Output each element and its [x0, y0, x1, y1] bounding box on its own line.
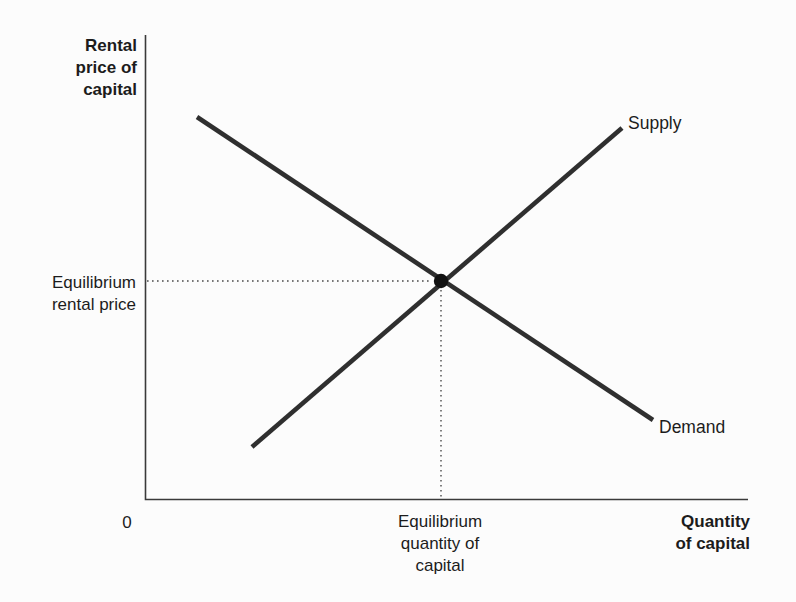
x-axis-title-line2: of capital: [675, 534, 750, 553]
demand-curve-label: Demand: [659, 417, 725, 437]
axes-lines: [146, 35, 749, 500]
equilibrium-quantity-line3: capital: [415, 556, 464, 575]
equilibrium-quantity-line1: Equilibrium: [398, 512, 482, 531]
y-axis-title-line2: price of: [76, 58, 138, 77]
equilibrium-quantity-line2: quantity of: [401, 534, 480, 553]
equilibrium-price-line1: Equilibrium: [52, 273, 136, 292]
origin-label: 0: [122, 513, 131, 532]
equilibrium-price-label: Equilibrium rental price: [52, 273, 136, 314]
supply-curve-label: Supply: [628, 113, 682, 133]
y-axis-title: Rental price of capital: [76, 36, 138, 99]
y-axis-title-line1: Rental: [85, 36, 137, 55]
equilibrium-quantity-label: Equilibrium quantity of capital: [398, 512, 482, 575]
equilibrium-point: [434, 274, 448, 288]
equilibrium-price-line2: rental price: [52, 295, 136, 314]
diagram-svg: Rental price of capital Equilibrium rent…: [0, 0, 796, 602]
x-axis-title: Quantity of capital: [675, 512, 750, 553]
supply-demand-figure: Rental price of capital Equilibrium rent…: [0, 0, 796, 602]
x-axis-title-line1: Quantity: [681, 512, 750, 531]
supply-curve: [252, 128, 622, 447]
y-axis-title-line3: capital: [83, 80, 137, 99]
